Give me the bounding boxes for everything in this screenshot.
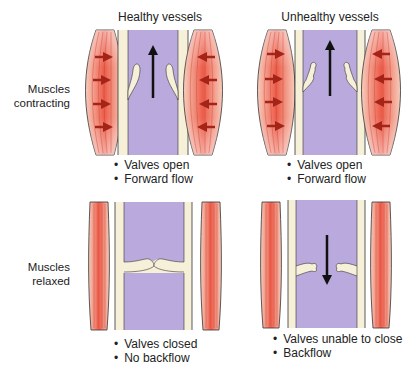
panel-unhealthy-contracting [258, 30, 401, 155]
bullets-unhealthy-contracting: Valves open Forward flow [287, 158, 366, 186]
vessel-unhealthy-leaky [288, 200, 365, 328]
muscle-relaxed-right [201, 202, 222, 330]
panel-healthy-relaxed [89, 202, 222, 330]
bullets-healthy-contracting: Valves open Forward flow [114, 158, 193, 186]
vessel-healthy-closed [115, 202, 192, 330]
muscle-relaxed-right [371, 202, 392, 328]
muscle-contracted-right [184, 30, 223, 155]
muscle-contracted-left [86, 30, 124, 155]
muscle-relaxed-left [261, 202, 282, 328]
panel-unhealthy-relaxed [261, 200, 392, 328]
muscle-relaxed-left [89, 202, 110, 330]
bullets-unhealthy-relaxed: Valves unable to close Backflow [273, 332, 402, 360]
vessel-unhealthy-open [295, 30, 365, 155]
muscle-contracted-left [258, 30, 296, 155]
bullets-healthy-relaxed: Valves closed No backflow [114, 337, 197, 365]
vessel-healthy-open [118, 30, 188, 155]
panel-healthy-contracting [86, 30, 223, 155]
muscle-contracted-right [362, 30, 401, 155]
